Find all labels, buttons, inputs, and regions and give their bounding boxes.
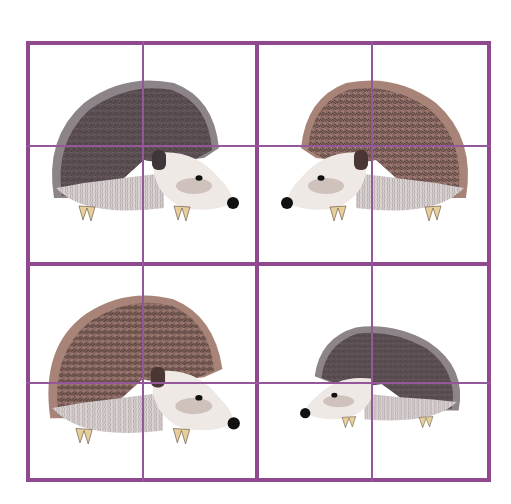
grid-center-vertical-line	[255, 41, 259, 482]
cropped-heading-text	[0, 0, 511, 4]
hedgehog-image-bottom-left	[40, 282, 245, 452]
hedgehog-image-top-left	[44, 68, 244, 228]
hedgehog-image-bottom-right	[284, 312, 479, 432]
grid-center-horizontal-line	[26, 262, 491, 266]
hedgehog-image-top-right	[276, 68, 476, 228]
